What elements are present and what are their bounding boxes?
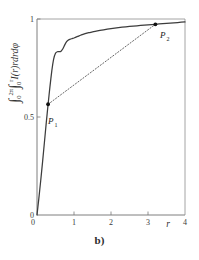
y-axis-ticks (37, 19, 41, 117)
marker-p2 (154, 22, 158, 26)
annotation-p2-label: P (159, 30, 166, 40)
annotation-p2-subscript: 2 (167, 36, 170, 42)
marker-p1 (46, 102, 50, 106)
plot-frame (37, 19, 185, 215)
x-tick-label-1: 1 (72, 218, 76, 227)
plot-area: 0 1 2 3 4 0 0.5 1 r P 1 P 2 (0, 0, 199, 260)
annotation-p1: P 1 (47, 116, 58, 128)
chord-line-p1-p2 (48, 24, 155, 104)
figure-container: 0 1 2 3 4 0 0.5 1 r P 1 P 2 ∫02π∫0rI(r)r… (0, 0, 199, 260)
x-tick-label-4: 4 (183, 218, 187, 227)
y-tick-label-half: 0.5 (24, 113, 34, 122)
x-axis-variable-label: r (166, 219, 170, 229)
cumulative-energy-curve (37, 22, 185, 215)
x-axis-ticks (74, 212, 148, 216)
x-tick-label-3: 3 (146, 218, 150, 227)
figure-caption: b) (0, 234, 199, 246)
y-tick-label-one: 1 (30, 15, 34, 24)
y-tick-label-0: 0 (30, 211, 34, 220)
annotation-p2: P 2 (159, 30, 170, 42)
x-tick-label-2: 2 (109, 218, 113, 227)
annotation-p1-label: P (47, 116, 54, 126)
annotation-p1-subscript: 1 (55, 122, 58, 128)
